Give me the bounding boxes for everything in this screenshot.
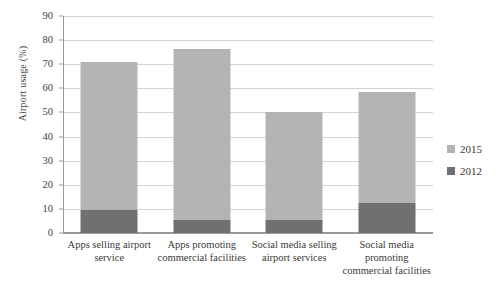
stacked-bar-chart: Airport usage (%) 9080706050403020100 Ap… <box>0 0 501 305</box>
y-axis-tick-label: 30 <box>43 155 54 166</box>
bar-segment-2012[interactable] <box>173 220 230 233</box>
y-axis-tick-label: 10 <box>43 204 54 215</box>
legend-label: 2015 <box>460 143 482 155</box>
bar-slot <box>248 16 341 233</box>
bar-stack[interactable] <box>358 92 415 233</box>
x-axis-category-label: Apps promoting commercial facilities <box>156 238 249 277</box>
bar-segment-2015[interactable] <box>81 62 138 210</box>
legend-label: 2012 <box>460 165 482 177</box>
x-axis-category-label: Social media selling airport services <box>248 238 341 277</box>
plot-area <box>63 16 433 233</box>
bar-slot <box>341 16 434 233</box>
y-axis-tick-label: 90 <box>43 11 54 22</box>
gridline <box>63 233 433 234</box>
legend-swatch-icon <box>447 167 455 175</box>
bar-slot <box>63 16 156 233</box>
y-axis-tick-label: 50 <box>43 107 54 118</box>
x-axis-category-labels: Apps selling airport serviceApps promoti… <box>63 238 433 277</box>
bar-segment-2015[interactable] <box>266 112 323 219</box>
x-axis-category-label: Social media promoting commercial facili… <box>341 238 434 277</box>
chart-legend: 20152012 <box>447 138 482 182</box>
bar-series-group <box>63 16 433 233</box>
legend-item[interactable]: 2015 <box>447 138 482 160</box>
bar-slot <box>156 16 249 233</box>
x-axis-category-label: Apps selling airport service <box>63 238 156 277</box>
bar-segment-2012[interactable] <box>81 210 138 233</box>
y-axis-tick-label: 80 <box>43 35 54 46</box>
y-axis-tick-label: 40 <box>43 131 54 142</box>
bar-segment-2012[interactable] <box>266 220 323 233</box>
bar-segment-2015[interactable] <box>358 92 415 203</box>
y-axis-tick-label: 60 <box>43 83 54 94</box>
bar-segment-2015[interactable] <box>173 49 230 220</box>
y-axis-tick-label: 70 <box>43 59 54 70</box>
bar-stack[interactable] <box>266 112 323 233</box>
y-axis-tick-label: 20 <box>43 180 54 191</box>
y-axis-tick-label: 0 <box>48 228 53 239</box>
legend-item[interactable]: 2012 <box>447 160 482 182</box>
legend-swatch-icon <box>447 145 455 153</box>
y-axis-tick-labels: 9080706050403020100 <box>0 16 63 233</box>
bar-stack[interactable] <box>81 62 138 233</box>
bar-stack[interactable] <box>173 49 230 233</box>
bar-segment-2012[interactable] <box>358 203 415 233</box>
